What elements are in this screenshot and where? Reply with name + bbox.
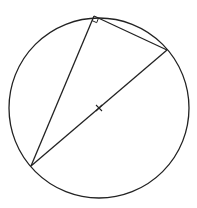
chord-top-right: [94, 16, 167, 50]
center-mark-icon: [96, 105, 102, 111]
circle-diagram: [0, 0, 197, 208]
chord-top-bottom-left: [31, 16, 94, 166]
